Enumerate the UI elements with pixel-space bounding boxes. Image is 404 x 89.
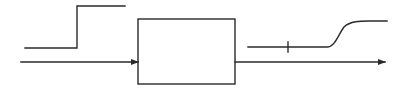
output-response-signal <box>248 21 387 52</box>
system-block <box>138 19 235 84</box>
input-step-signal <box>25 6 125 48</box>
diagram-svg <box>0 0 404 89</box>
block-diagram <box>0 0 404 89</box>
